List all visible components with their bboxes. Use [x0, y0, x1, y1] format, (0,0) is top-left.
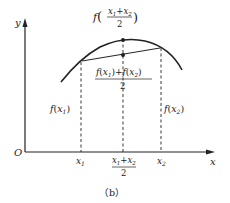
label-f-x2: f(x2): [163, 103, 184, 115]
point-f-of-mean: [121, 38, 125, 42]
label-f-of-mean-close-paren: ): [133, 10, 138, 25]
x-axis-arrow-icon: [206, 150, 215, 155]
tick-mid-numerator: x1+x2: [112, 155, 136, 166]
label-mean-of-f-numerator: f(x1)+f(x2): [95, 67, 141, 78]
label-f-of-mean-prefix: f(: [92, 9, 102, 24]
concave-function-diagram: y x O x1 x1+x2 2 x2 f( x1+x2 2 ) f(x1)+f…: [0, 0, 230, 203]
label-mean-of-f-denominator: 2: [120, 81, 125, 91]
label-f-of-mean-denominator: 2: [117, 19, 122, 29]
y-axis-label: y: [14, 17, 21, 28]
label-f-x1: f(x1): [49, 103, 70, 115]
tick-x1: x1: [76, 156, 85, 167]
label-f-of-mean-numerator: x1+x2: [108, 6, 132, 17]
tick-x2: x2: [157, 156, 166, 167]
y-axis-arrow-icon: [23, 18, 28, 27]
point-mean-of-f: [121, 53, 125, 57]
tick-mid-denominator: 2: [121, 168, 126, 178]
origin-label: O: [14, 147, 22, 158]
x-axis-label: x: [210, 156, 216, 167]
figure-caption: （b）: [99, 187, 125, 198]
